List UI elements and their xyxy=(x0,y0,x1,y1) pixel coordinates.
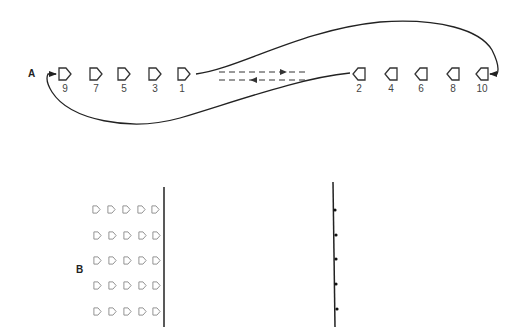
marker-number-1: 1 xyxy=(172,83,192,94)
dot-marker xyxy=(333,208,336,211)
dot-marker xyxy=(334,282,337,285)
upper-curve-arrow xyxy=(196,21,498,74)
dot-marker xyxy=(335,307,338,310)
marker-number-3: 3 xyxy=(145,83,165,94)
diagram-canvas xyxy=(0,0,525,327)
marker-number-10: 10 xyxy=(472,83,492,94)
pentagon-marker-3 xyxy=(149,68,161,80)
marker-number-6: 6 xyxy=(411,83,431,94)
pentagon-marker-7 xyxy=(90,68,102,80)
dashed-arrow-forward-head xyxy=(280,69,287,75)
pentagon-marker-5 xyxy=(118,68,130,80)
dot-marker xyxy=(334,233,337,236)
panel-b-right-line xyxy=(333,182,335,327)
grid-row-4 xyxy=(94,282,160,289)
dashed-arrow-return-head xyxy=(250,77,257,83)
marker-number-7: 7 xyxy=(86,83,106,94)
panel-b-label: B xyxy=(76,264,83,275)
pentagon-marker-8 xyxy=(447,68,459,80)
pentagon-marker-9 xyxy=(59,68,71,80)
marker-number-9: 9 xyxy=(55,83,75,94)
panel-a-left-row xyxy=(59,68,190,80)
panel-b-grid xyxy=(93,206,160,315)
pentagon-marker-10 xyxy=(476,68,488,80)
grid-row-5 xyxy=(94,308,160,315)
marker-number-4: 4 xyxy=(381,83,401,94)
grid-row-2 xyxy=(94,232,160,239)
dot-marker xyxy=(334,257,337,260)
pentagon-marker-1 xyxy=(178,68,190,80)
grid-row-3 xyxy=(94,257,160,264)
pentagon-marker-2 xyxy=(353,68,365,80)
marker-number-2: 2 xyxy=(349,83,369,94)
marker-number-5: 5 xyxy=(114,83,134,94)
marker-number-8: 8 xyxy=(443,83,463,94)
pentagon-marker-4 xyxy=(385,68,397,80)
panel-a-right-row xyxy=(353,68,488,80)
diagram: A B 9 7 5 3 1 2 4 6 8 10 xyxy=(0,0,525,327)
grid-row-1 xyxy=(93,206,159,213)
pentagon-marker-6 xyxy=(415,68,427,80)
panel-a-label: A xyxy=(28,68,35,79)
